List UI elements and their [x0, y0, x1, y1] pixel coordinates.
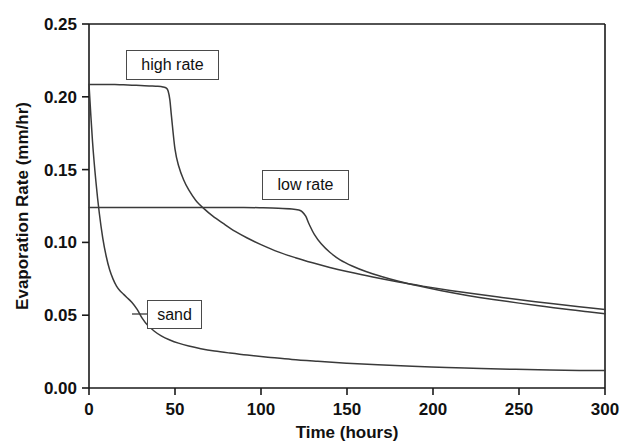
x-tick-label: 100: [247, 400, 275, 419]
y-tick-label: 0.05: [44, 306, 77, 325]
y-tick-label: 0.25: [44, 15, 77, 34]
x-tick-label: 250: [505, 400, 533, 419]
x-tick-labels: 050100150200250300: [84, 400, 619, 419]
y-tick-label: 0.20: [44, 88, 77, 107]
x-tick-label: 300: [591, 400, 619, 419]
plot-canvas: 0.000.050.100.150.200.25 050100150200250…: [0, 0, 635, 447]
x-tick-label: 50: [166, 400, 185, 419]
y-tick-label: 0.15: [44, 161, 77, 180]
y-tick-labels: 0.000.050.100.150.200.25: [44, 15, 77, 398]
callout-low-rate: low rate: [262, 170, 349, 200]
y-tick-marks: [82, 24, 89, 388]
curve-low-rate: [89, 207, 605, 313]
x-tick-marks: [89, 388, 605, 395]
y-tick-label: 0.00: [44, 379, 77, 398]
evaporation-rate-chart: 0.000.050.100.150.200.25 050100150200250…: [0, 0, 635, 447]
x-axis-title: Time (hours): [296, 423, 399, 442]
y-axis-title: Evaporation Rate (mm/hr): [13, 102, 32, 310]
callout-sand: sand: [147, 300, 202, 329]
y-tick-label: 0.10: [44, 233, 77, 252]
x-tick-label: 150: [333, 400, 361, 419]
callout-high-rate: high rate: [126, 50, 219, 80]
x-tick-label: 0: [84, 400, 93, 419]
x-tick-label: 200: [419, 400, 447, 419]
